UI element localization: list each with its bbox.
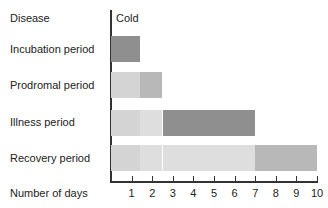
row-label-illness: Illness period	[10, 116, 75, 129]
bar-segment	[163, 110, 256, 136]
x-tick-label: 4	[183, 187, 203, 199]
row-label-incubation: Incubation period	[10, 43, 94, 56]
x-tick-label: 10	[307, 187, 327, 199]
x-tick-label: 9	[286, 187, 306, 199]
x-tick	[132, 176, 133, 182]
bar-segment	[140, 145, 163, 171]
x-tick	[317, 176, 318, 182]
x-tick-label: 8	[266, 187, 286, 199]
x-tick	[255, 176, 256, 182]
row-label-recovery: Recovery period	[10, 152, 90, 165]
bar-segment	[111, 145, 140, 171]
x-axis-label: Number of days	[10, 187, 88, 200]
x-tick	[173, 176, 174, 182]
x-tick	[296, 176, 297, 182]
bar-segment	[111, 72, 140, 98]
x-tick	[235, 176, 236, 182]
bar-segment	[163, 145, 256, 171]
x-tick	[276, 176, 277, 182]
disease-header: Disease	[10, 12, 50, 25]
x-tick-label: 5	[204, 187, 224, 199]
x-tick	[193, 176, 194, 182]
x-tick-label: 3	[163, 187, 183, 199]
x-tick-label: 2	[142, 187, 162, 199]
bar-segment	[255, 145, 317, 171]
x-tick	[214, 176, 215, 182]
x-tick-label: 1	[122, 187, 142, 199]
row-label-prodromal: Prodromal period	[10, 79, 94, 92]
x-tick-label: 6	[225, 187, 245, 199]
bar-segment	[111, 110, 140, 136]
disease-title: Cold	[116, 12, 139, 24]
x-tick	[152, 176, 153, 182]
bar-segment	[111, 36, 140, 62]
bar-segment	[140, 72, 163, 98]
bar-segment	[140, 110, 163, 136]
x-tick-label: 7	[245, 187, 265, 199]
